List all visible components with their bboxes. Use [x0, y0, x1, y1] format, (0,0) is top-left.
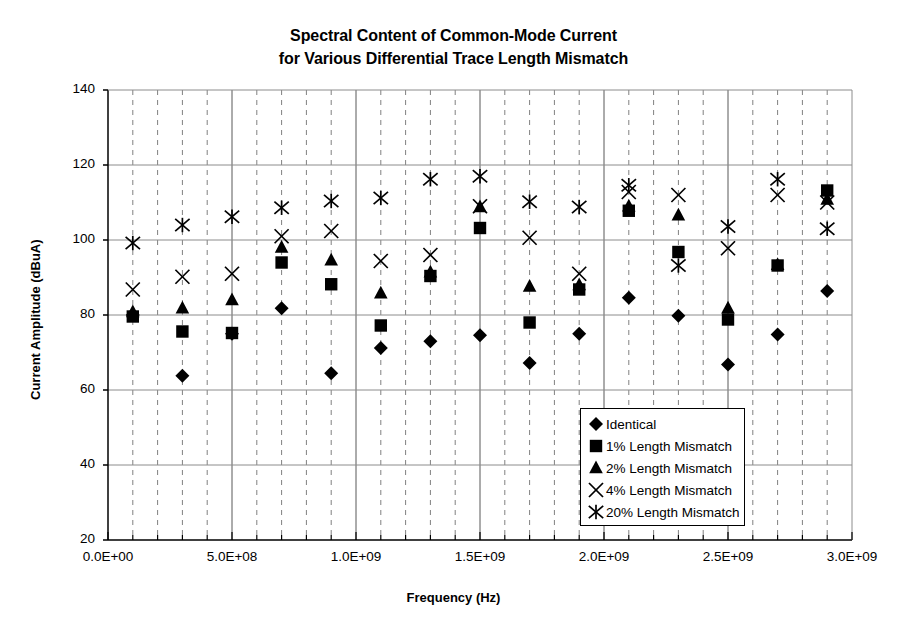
- data-point-diamond: [622, 291, 636, 305]
- x-tick-label: 1.0E+09: [311, 550, 401, 564]
- data-point-x: [374, 254, 388, 268]
- data-point-diamond: [374, 341, 388, 355]
- data-point-asterisk: [622, 178, 636, 192]
- x-tick-label: 1.5E+09: [435, 550, 525, 564]
- legend-label: 4% Length Mismatch: [605, 483, 732, 498]
- data-point-diamond: [589, 417, 603, 431]
- legend-item-diamond: Identical: [581, 413, 744, 435]
- y-tick-label: 60: [47, 382, 95, 396]
- square-icon: [587, 437, 605, 455]
- legend-item-x: 4% Length Mismatch: [581, 479, 744, 501]
- x-tick-label: 3.0E+09: [807, 550, 897, 564]
- data-point-square: [275, 256, 287, 268]
- data-point-diamond: [671, 309, 685, 323]
- data-point-asterisk: [721, 219, 735, 233]
- legend-item-triangle: 2% Length Mismatch: [581, 457, 744, 479]
- y-tick-label: 40: [47, 457, 95, 471]
- x-tick-label: 2.0E+09: [559, 550, 649, 564]
- data-point-triangle: [176, 301, 190, 314]
- data-point-diamond: [572, 327, 586, 341]
- data-point-square: [523, 316, 535, 328]
- diamond-icon: [587, 415, 605, 433]
- legend-item-square: 1% Length Mismatch: [581, 435, 744, 457]
- data-point-triangle: [672, 208, 686, 221]
- y-tick-label: 120: [47, 157, 95, 171]
- data-point-triangle: [324, 253, 338, 266]
- data-point-asterisk: [374, 191, 388, 205]
- legend-label: Identical: [605, 417, 656, 432]
- x-icon: [587, 481, 605, 499]
- y-tick-label: 100: [47, 232, 95, 246]
- data-point-diamond: [175, 369, 189, 383]
- data-point-diamond: [771, 328, 785, 342]
- data-point-asterisk: [522, 195, 536, 209]
- data-point-square: [176, 325, 188, 337]
- data-point-triangle: [374, 286, 388, 299]
- data-point-triangle: [721, 301, 735, 314]
- x-tick-label: 2.5E+09: [683, 550, 773, 564]
- data-point-asterisk: [589, 505, 603, 519]
- data-point-triangle: [225, 293, 239, 306]
- data-point-square: [672, 246, 684, 258]
- triangle-icon: [587, 459, 605, 477]
- y-tick-label: 20: [47, 532, 95, 546]
- data-point-asterisk: [126, 236, 140, 250]
- data-point-square: [722, 313, 734, 325]
- plot-area: [0, 0, 907, 629]
- legend-item-asterisk: 20% Length Mismatch: [581, 501, 744, 523]
- data-point-x: [324, 224, 338, 238]
- data-point-triangle: [589, 461, 603, 474]
- data-point-diamond: [324, 366, 338, 380]
- data-point-asterisk: [274, 201, 288, 215]
- data-point-square: [325, 278, 337, 290]
- chart-figure: Spectral Content of Common-Mode Current …: [0, 0, 907, 629]
- data-point-diamond: [473, 328, 487, 342]
- data-point-asterisk: [770, 172, 784, 186]
- data-point-diamond: [820, 284, 834, 298]
- x-tick-label: 0.0E+00: [63, 550, 153, 564]
- data-point-square: [474, 222, 486, 234]
- data-point-square: [590, 440, 602, 452]
- data-point-diamond: [423, 334, 437, 348]
- data-point-square: [226, 327, 238, 339]
- data-point-asterisk: [225, 210, 239, 224]
- data-point-asterisk: [473, 169, 487, 183]
- legend-label: 2% Length Mismatch: [605, 461, 732, 476]
- data-point-asterisk: [175, 218, 189, 232]
- data-point-diamond: [275, 301, 289, 315]
- data-point-asterisk: [423, 172, 437, 186]
- data-point-asterisk: [820, 222, 834, 236]
- data-point-square: [375, 319, 387, 331]
- x-tick-label: 5.0E+08: [187, 550, 277, 564]
- data-point-diamond: [523, 356, 537, 370]
- data-point-triangle: [523, 279, 537, 292]
- data-point-diamond: [721, 358, 735, 372]
- data-point-asterisk: [671, 258, 685, 272]
- y-tick-label: 80: [47, 307, 95, 321]
- legend-label: 20% Length Mismatch: [605, 505, 740, 520]
- data-point-asterisk: [324, 194, 338, 208]
- data-point-x: [589, 483, 603, 497]
- y-tick-label: 140: [47, 82, 95, 96]
- chart-legend: Identical1% Length Mismatch2% Length Mis…: [580, 408, 745, 526]
- legend-label: 1% Length Mismatch: [605, 439, 732, 454]
- data-point-asterisk: [572, 200, 586, 214]
- asterisk-icon: [587, 503, 605, 521]
